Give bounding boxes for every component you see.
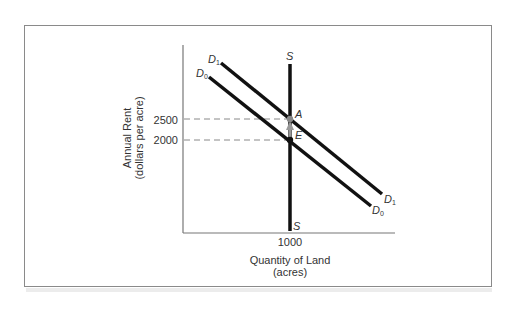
y-axis-title: Annual Rent <box>121 108 133 169</box>
point-e <box>287 137 293 143</box>
d0-label-bottom-sub: 0 <box>380 210 384 217</box>
point-a-label: A <box>294 108 302 120</box>
x-axis-subtitle: (acres) <box>273 266 307 278</box>
supply-label-top: S <box>286 50 294 62</box>
point-a <box>287 116 293 122</box>
supply-label-bottom: S <box>293 220 301 232</box>
d1-label-top-sub: 1 <box>216 59 220 66</box>
x-tick-1000: 1000 <box>278 236 302 248</box>
y-axis-subtitle: (dollars per acre) <box>133 96 145 179</box>
land-rent-diagram: 2500 2000 1000 Quantity of Land (acres) … <box>0 0 513 310</box>
x-axis-title: Quantity of Land <box>250 254 331 266</box>
y-tick-2000: 2000 <box>154 134 178 146</box>
d1-label-bottom: D <box>384 193 392 205</box>
y-tick-2500: 2500 <box>154 114 178 126</box>
d1-label-top: D <box>208 53 216 65</box>
d1-label-bottom-sub: 1 <box>392 199 396 206</box>
d0-label-top-sub: 0 <box>204 73 208 80</box>
d0-label-bottom: D <box>372 204 380 216</box>
d0-label-top: D <box>196 67 204 79</box>
point-e-label: E <box>295 129 303 141</box>
